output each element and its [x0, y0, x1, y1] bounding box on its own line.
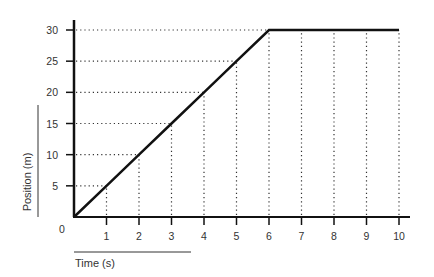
x-tick-label: 8 — [331, 230, 337, 242]
y-tick-label: 5 — [52, 180, 58, 192]
x-tick-label: 5 — [234, 230, 240, 242]
x-tick-label: 7 — [299, 230, 305, 242]
x-tick-label: 4 — [201, 230, 207, 242]
x-axis-title: Time (s) — [75, 257, 115, 269]
grid-lines — [76, 30, 399, 215]
y-tick-label: 30 — [46, 24, 58, 36]
x-tick-label: 2 — [136, 230, 142, 242]
y-tick-label: 20 — [46, 86, 58, 98]
y-tick-label: 25 — [46, 55, 58, 67]
x-tick-label: 9 — [364, 230, 370, 242]
position-time-chart: 5101520253012345678910 0 Position (m) Ti… — [0, 0, 434, 277]
tick-labels: 5101520253012345678910 — [46, 24, 405, 242]
x-tick-label: 3 — [169, 230, 175, 242]
origin-label: 0 — [59, 223, 65, 235]
y-tick-label: 10 — [46, 149, 58, 161]
x-tick-label: 6 — [266, 230, 272, 242]
y-axis-title: Position (m) — [21, 153, 33, 212]
tick-marks — [66, 30, 399, 225]
x-tick-label: 1 — [104, 230, 110, 242]
x-tick-label: 10 — [393, 230, 405, 242]
y-tick-label: 15 — [46, 118, 58, 130]
axes — [73, 20, 410, 217]
